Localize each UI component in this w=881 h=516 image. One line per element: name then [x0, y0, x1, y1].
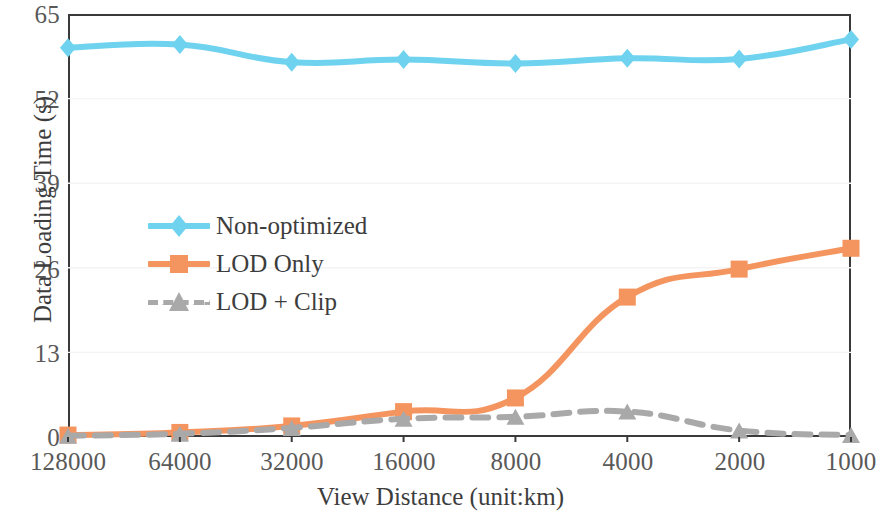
- legend-label: LOD + Clip: [216, 289, 337, 315]
- x-tick-label: 16000: [372, 449, 436, 475]
- x-tick-label: 64000: [148, 449, 212, 475]
- x-tick-label: 4000: [603, 449, 654, 475]
- series-non-optimized: [60, 30, 859, 73]
- x-tick-label: 32000: [260, 449, 324, 475]
- legend-item-non-optimized: Non-optimized: [148, 207, 408, 245]
- x-tick-label: 128000: [30, 449, 106, 475]
- diamond-marker: [731, 49, 747, 68]
- legend-swatch-diamond-icon: [148, 214, 210, 238]
- x-tick-label: 2000: [715, 449, 766, 475]
- x-tick-label: 8000: [491, 449, 542, 475]
- square-marker: [619, 289, 636, 306]
- diamond-marker: [507, 54, 523, 73]
- chart-figure: 65 52 39 26 13 0 Data Loading Time (s) 1…: [0, 0, 881, 516]
- legend-swatch-square-icon: [148, 252, 210, 276]
- legend-item-lod-only: LOD Only: [148, 245, 408, 283]
- square-marker: [731, 261, 748, 278]
- series-line: [68, 411, 851, 436]
- diamond-marker: [60, 38, 76, 57]
- diamond-marker: [172, 35, 188, 54]
- diamond-marker: [619, 49, 635, 68]
- x-tick-label: 1000: [826, 449, 877, 475]
- diamond-marker: [843, 30, 859, 49]
- chart-canvas: [0, 0, 881, 516]
- diamond-marker: [395, 50, 411, 69]
- x-axis-title: View Distance (unit:km): [0, 483, 881, 511]
- diamond-marker: [284, 53, 300, 72]
- legend-label: LOD Only: [216, 251, 324, 277]
- square-marker: [843, 240, 860, 257]
- chart-legend: Non-optimized LOD Only LOD + Clip: [148, 207, 408, 321]
- legend-item-lod-clip: LOD + Clip: [148, 283, 408, 321]
- legend-swatch-triangle-icon: [148, 290, 210, 314]
- x-axis-tick-labels: 128000 64000 32000 16000 8000 4000 2000 …: [0, 449, 881, 483]
- legend-label: Non-optimized: [216, 213, 367, 239]
- square-marker: [507, 389, 524, 406]
